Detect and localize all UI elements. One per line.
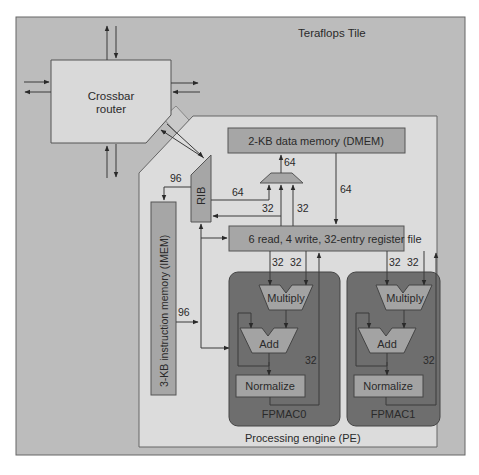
fpmac0-normalize-label: Normalize xyxy=(245,380,295,392)
fpmac1[interactable]: Multiply Add Normalize FPMAC1 32 32 32 xyxy=(347,251,440,426)
fpmac1-width: 32 xyxy=(423,354,435,366)
fpmac1-normalize-label: Normalize xyxy=(363,380,413,392)
bus-width-rib-mux: 64 xyxy=(232,186,244,198)
fpmac0[interactable]: Multiply Add Normalize FPMAC0 32 32 32 xyxy=(229,251,340,426)
bus-width-regfile-rib: 32 xyxy=(262,202,274,214)
fpmac0-multiply-label: Multiply xyxy=(267,292,305,304)
bus-width-fpmac0-b: 32 xyxy=(290,256,302,268)
rib-label: RIB xyxy=(195,187,207,205)
fpmac0-add-label: Add xyxy=(259,338,279,350)
tile-title: Teraflops Tile xyxy=(298,27,366,39)
dmem-label: 2-KB data memory (DMEM) xyxy=(248,135,384,147)
pe-label: Processing engine (PE) xyxy=(245,432,361,444)
fpmac1-multiply-label: Multiply xyxy=(386,292,424,304)
bus-width-fpmac1-b: 32 xyxy=(407,256,419,268)
fpmac0-label: FPMAC0 xyxy=(262,408,307,420)
register-file-label: 6 read, 4 write, 32-entry register file xyxy=(248,233,421,245)
bus-width-mux-dmem: 64 xyxy=(284,156,296,168)
fpmac1-add-label: Add xyxy=(377,338,397,350)
router-label-line2: router xyxy=(96,103,126,115)
bus-width-fpmac1-a: 32 xyxy=(389,256,401,268)
fpmac1-label: FPMAC1 xyxy=(371,408,416,420)
bus-width-regfile-mux: 32 xyxy=(297,202,309,214)
teraflops-tile-diagram: Teraflops Tile Processing engine (PE) Cr… xyxy=(0,0,479,475)
bus-width-imem-fpmac: 96 xyxy=(178,306,190,318)
imem-label: 3-KB instruction memory (IMEM) xyxy=(158,235,170,387)
bus-width-fpmac0-a: 32 xyxy=(272,256,284,268)
router-label-line1: Crossbar xyxy=(88,90,135,102)
bus-width-rib-imem: 96 xyxy=(170,172,182,184)
bus-width-dmem-regfile: 64 xyxy=(340,183,352,195)
fpmac0-width: 32 xyxy=(305,354,317,366)
